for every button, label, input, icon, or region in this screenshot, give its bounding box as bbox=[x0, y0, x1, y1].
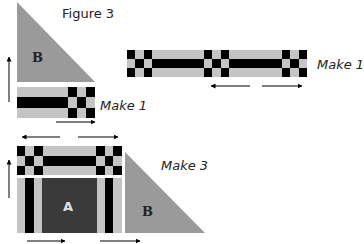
strip-top-left bbox=[17, 87, 95, 118]
block-a-label: A bbox=[63, 199, 73, 214]
checker-left bbox=[127, 50, 152, 77]
instruction-make-3: Make 3 bbox=[161, 158, 208, 173]
strip-bottom bbox=[17, 146, 122, 175]
instruction-make-1-top-left: Make 1 bbox=[100, 98, 147, 113]
instruction-make-1-top-right: Make 1 bbox=[317, 57, 364, 72]
checker-right bbox=[282, 50, 307, 77]
triangle-b-label-bottom: B bbox=[142, 204, 153, 219]
unit-top-right bbox=[127, 50, 307, 86]
triangle-b-label-top: B bbox=[32, 50, 43, 65]
unit-bottom bbox=[9, 137, 205, 241]
figure-title: Figure 3 bbox=[62, 6, 114, 21]
checker-middle bbox=[204, 50, 229, 77]
